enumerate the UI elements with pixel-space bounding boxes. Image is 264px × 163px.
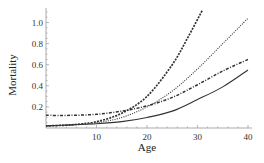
x-tick-label: 10 [92,132,102,142]
y-tick-label: 0.4 [32,81,44,91]
y-tick-label: 0.6 [32,60,44,70]
series-solid-line [46,70,248,126]
x-tick-label: 40 [244,132,254,142]
x-tick-label: 30 [193,132,203,142]
y-axis-label: Mortality [6,54,18,96]
y-tick-label: 0.8 [32,39,44,49]
series-group [46,10,248,126]
axes: 102030400.20.40.60.81.0 [32,8,253,142]
axis-labels: Age Mortality [6,54,156,153]
x-axis-label: Age [138,141,156,153]
y-tick-label: 0.2 [32,102,43,112]
y-tick-label: 1.0 [32,18,44,28]
mortality-chart: 102030400.20.40.60.81.0 Age Mortality [0,0,264,163]
series-dotted-line [46,18,248,126]
